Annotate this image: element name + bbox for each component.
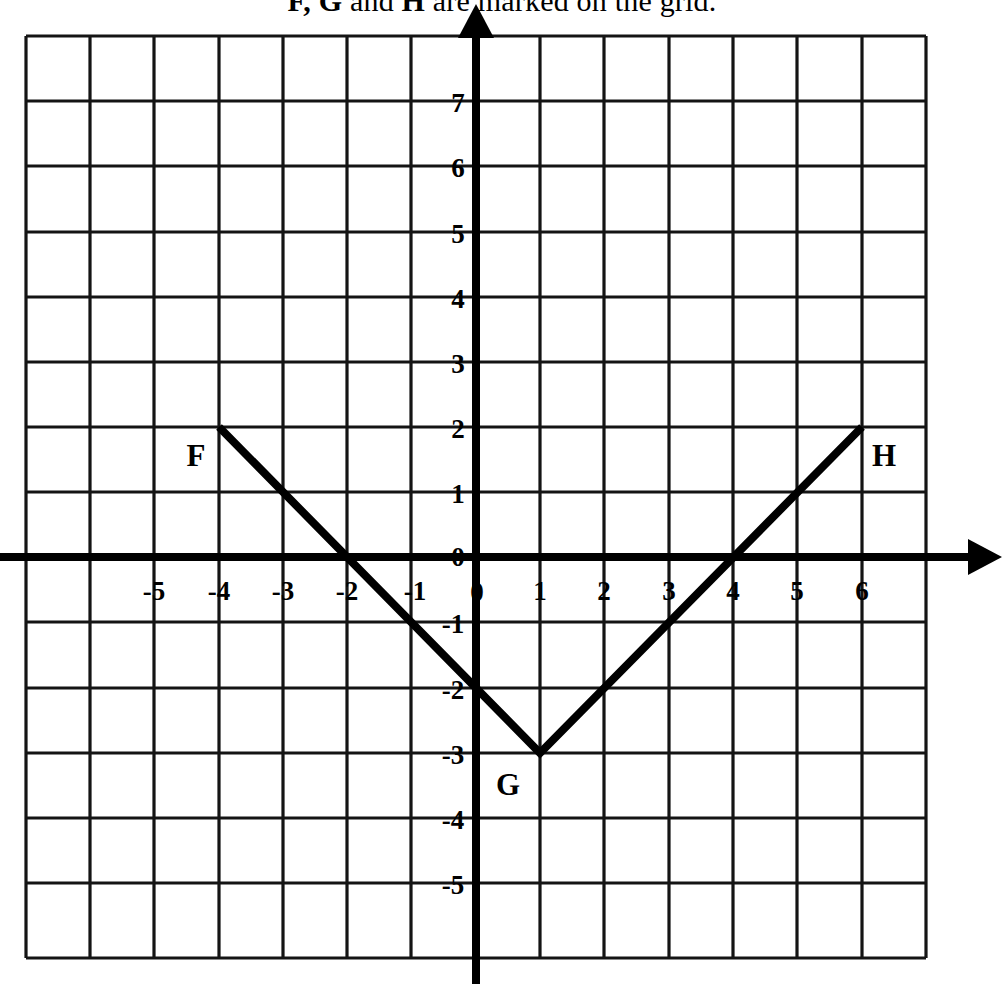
- coordinate-grid-graph: -5 -4 -3 -2 -1 0 1 2 3 4 5 6 7 6 5 4 3 2…: [0, 0, 1004, 984]
- y-tick-label: 1: [451, 479, 465, 509]
- y-tick-label: 7: [451, 88, 465, 118]
- x-tick-label: -3: [272, 576, 295, 606]
- x-tick-label: 5: [790, 576, 804, 606]
- worksheet-page: F, G and H are marked on the grid.: [0, 0, 1004, 984]
- x-tick-label: -4: [208, 576, 231, 606]
- x-axis-tick-labels: -5 -4 -3 -2 -1 0 1 2 3 4 5 6: [143, 576, 869, 607]
- x-tick-label: -1: [404, 576, 427, 606]
- x-tick-label: -5: [143, 576, 166, 606]
- x-tick-label: -2: [336, 576, 359, 606]
- point-label-h: H: [872, 438, 896, 473]
- y-tick-label: -4: [442, 805, 465, 835]
- point-label-g: G: [496, 767, 520, 802]
- x-tick-label: 3: [662, 576, 676, 606]
- x-axis-arrowhead: [968, 539, 1002, 575]
- y-tick-label: -2: [442, 675, 465, 705]
- y-tick-label-origin: 0: [451, 542, 465, 572]
- y-tick-label: -3: [442, 740, 465, 770]
- y-tick-label: -5: [442, 870, 465, 900]
- y-tick-label: 4: [451, 284, 465, 314]
- x-tick-label: 1: [533, 576, 547, 606]
- y-tick-label: 3: [451, 349, 465, 379]
- y-tick-label: 2: [451, 414, 465, 444]
- axes: [0, 28, 975, 984]
- y-tick-label: 5: [451, 219, 465, 249]
- y-tick-label: 6: [451, 153, 465, 183]
- x-tick-label: 4: [726, 576, 740, 606]
- x-tick-label-origin: 0: [470, 577, 484, 607]
- x-tick-label: 6: [855, 576, 869, 606]
- point-label-f: F: [187, 438, 206, 473]
- y-tick-label: -1: [442, 609, 465, 639]
- y-axis-arrowhead: [458, 4, 494, 38]
- y-axis-tick-labels: 7 6 5 4 3 2 1 0 -1 -2 -3 -4 -5: [442, 88, 465, 900]
- x-tick-label: 2: [597, 576, 611, 606]
